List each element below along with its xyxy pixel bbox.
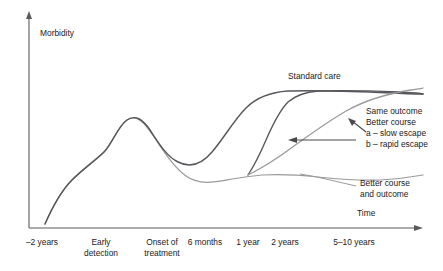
y-axis-label: Morbidity [40,28,74,39]
x-axis-label: Time [357,208,375,219]
annotation-better-course-and-outcome: Better course and outcome [360,178,410,199]
x-tick-label-early-detection: Early detection [74,237,128,258]
x-axis-arrowhead [414,225,423,231]
x-tick-label-6-months: 6 months [179,237,231,248]
y-axis-arrowhead [26,11,32,19]
x-tick-label-1-year: 1 year [230,237,266,248]
x-tick-label-5-10-years: 5–10 years [324,237,384,248]
annotation-same-outcome: Same outcome [366,106,422,117]
annotation-b-rapid-escape: b – rapid escape [366,139,428,150]
annotation-arrow-same-outcome [348,118,366,132]
annotation-a-slow-escape: a – slow escape [366,128,426,139]
annotation-arrow-rapid-escape [288,137,356,143]
x-tick-label-minus-2-years: –2 years [14,237,70,248]
annotation-standard-care: Standard care [288,71,341,82]
x-tick-label-2-years: 2 years [264,237,306,248]
annotation-better-course: Better course [366,117,416,128]
